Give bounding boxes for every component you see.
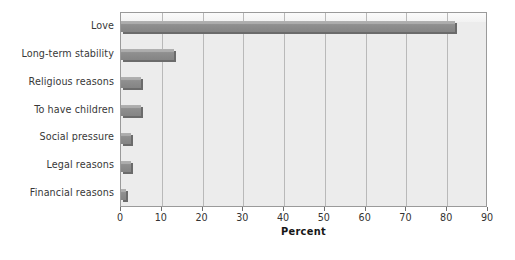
x-axis-title: Percent <box>120 226 487 237</box>
gridline <box>243 13 244 206</box>
bar-highlight <box>121 161 131 164</box>
x-axis-tick-label: 0 <box>105 212 135 223</box>
bar-highlight <box>121 133 131 136</box>
gridline <box>162 13 163 206</box>
x-axis-tick <box>487 207 488 211</box>
bar <box>121 189 126 200</box>
x-axis-tick <box>202 207 203 211</box>
x-axis-tick <box>446 207 447 211</box>
x-axis-tick <box>405 207 406 211</box>
gridline <box>325 13 326 206</box>
x-axis-tick <box>365 207 366 211</box>
category-label: Long-term stability <box>0 49 114 59</box>
x-axis-tick-label: 30 <box>227 212 257 223</box>
category-axis-labels: LoveLong-term stabilityReligious reasons… <box>0 12 114 207</box>
bar <box>121 161 131 172</box>
x-axis-tick-label: 70 <box>390 212 420 223</box>
x-axis-tick-label: 40 <box>268 212 298 223</box>
x-axis: 0102030405060708090 <box>120 207 487 225</box>
gridline <box>447 13 448 206</box>
category-label: Love <box>0 21 114 31</box>
x-axis-tick <box>120 207 121 211</box>
x-axis-tick-label: 50 <box>309 212 339 223</box>
x-axis-tick-label: 80 <box>431 212 461 223</box>
bar-highlight <box>121 49 174 52</box>
category-label: Financial reasons <box>0 188 114 198</box>
bar-highlight <box>121 105 141 108</box>
plot-area <box>120 12 487 207</box>
category-label: To have children <box>0 105 114 115</box>
x-axis-tick <box>161 207 162 211</box>
x-axis-tick-label: 90 <box>472 212 502 223</box>
category-label: Legal reasons <box>0 160 114 170</box>
category-label: Religious reasons <box>0 77 114 87</box>
category-label: Social pressure <box>0 132 114 142</box>
bar <box>121 133 131 144</box>
bar-highlight <box>121 21 455 24</box>
bar-chart: LoveLong-term stabilityReligious reasons… <box>0 0 515 260</box>
gridline <box>284 13 285 206</box>
gridline <box>203 13 204 206</box>
x-axis-tick <box>283 207 284 211</box>
bar-highlight <box>121 77 141 80</box>
x-axis-tick <box>324 207 325 211</box>
x-axis-tick-label: 10 <box>146 212 176 223</box>
x-axis-tick-label: 20 <box>187 212 217 223</box>
bar <box>121 21 455 32</box>
x-axis-tick <box>242 207 243 211</box>
gridline <box>406 13 407 206</box>
x-axis-tick-label: 60 <box>350 212 380 223</box>
bar <box>121 105 141 116</box>
bar <box>121 77 141 88</box>
gridline <box>366 13 367 206</box>
bar-highlight <box>121 189 126 192</box>
bar <box>121 49 174 60</box>
